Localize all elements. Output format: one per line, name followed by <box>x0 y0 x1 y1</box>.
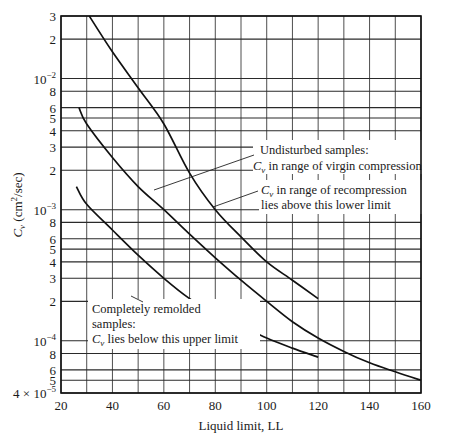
x-tick-label: 140 <box>360 398 380 413</box>
annotation-recompression-line2: lies above this lower limit <box>261 198 391 212</box>
x-tick-label: 80 <box>209 398 222 413</box>
y-tick-label: 4 <box>50 124 57 139</box>
y-tick-label: 3 <box>50 9 57 24</box>
x-axis-label: Liquid limit, LL <box>199 418 284 433</box>
leader-line-virgin <box>154 155 254 190</box>
x-tick-label: 100 <box>257 398 277 413</box>
y-tick-label: 2 <box>50 163 57 178</box>
y-tick-label: 8 <box>50 347 57 362</box>
x-tick-label: 40 <box>106 398 119 413</box>
cv-vs-liquid-limit-chart: 3210−286543210−386543210−48654 × 10−5 20… <box>0 0 449 436</box>
y-tick-label: 3 <box>50 271 57 286</box>
annotation-remolded-line2: samples: <box>92 317 136 331</box>
y-tick-label: 8 <box>50 215 57 230</box>
annotation-recompression-line1: Cv in range of recompression <box>261 183 407 199</box>
x-tick-label: 20 <box>55 398 68 413</box>
y-tick-label: 2 <box>50 32 57 47</box>
y-tick-label: 8 <box>50 84 57 99</box>
annotation-remolded-line1: Completely remolded <box>92 302 201 316</box>
annotation-remolded-line3: Cv lies below this upper limit <box>92 332 239 348</box>
y-axis-label: Cv (cm2/sec) <box>9 172 27 237</box>
leader-line-recompression <box>213 191 258 207</box>
y-tick-label: 4 × 10−5 <box>13 384 56 401</box>
x-tick-label: 120 <box>308 398 328 413</box>
x-tick-label: 60 <box>157 398 170 413</box>
y-tick-label: 2 <box>50 294 57 309</box>
annotation-virgin-line2: Cv in range of virgin compression <box>253 159 422 175</box>
x-axis-tick-labels: 20406080100120140160 <box>55 398 431 413</box>
y-tick-label: 4 <box>50 255 57 270</box>
x-tick-label: 160 <box>411 398 431 413</box>
annotation-virgin-line1: Undisturbed samples: <box>260 143 369 157</box>
y-tick-label: 3 <box>50 140 57 155</box>
